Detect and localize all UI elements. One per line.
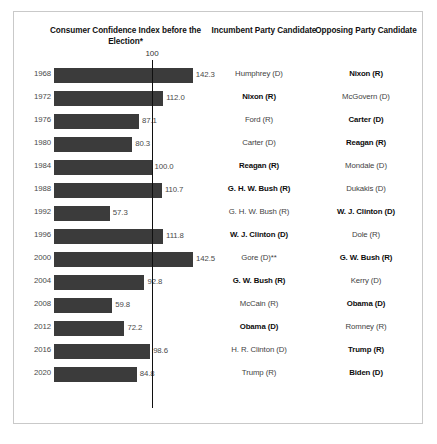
row-year-label: 1996 [14,230,51,239]
bar [54,344,150,359]
bar [54,367,137,382]
opposing-candidate: W. J. Clinton (D) [312,207,420,216]
opposing-candidate: McGovern (D) [312,92,420,101]
row-year-label: 1992 [14,207,51,216]
bar [54,298,112,313]
row-year-label: 1980 [14,138,51,147]
row-year-label: 1976 [14,115,51,124]
incumbent-candidate: G. W. Bush (R) [200,276,318,285]
bar [54,183,162,198]
incumbent-candidate: Gore (D)** [200,253,318,262]
bar-value-label: 87.1 [142,116,157,125]
chart-row: 1968142.3Humphrey (D)Nixon (R) [14,64,424,87]
opposing-candidate: Trump (R) [312,345,420,354]
chart-row: 197687.1Ford (R)Carter (D) [14,110,424,133]
row-year-label: 2020 [14,368,51,377]
incumbent-candidate: Humphrey (D) [200,69,318,78]
incumbent-candidate: G. H. W. Bush (R) [200,184,318,193]
bar [54,160,152,175]
opposing-candidate: Romney (R) [312,322,420,331]
bar [54,137,132,152]
incumbent-candidate: Reagan (R) [200,161,318,170]
chart-row: 1996111.8W. J. Clinton (D)Dole (R) [14,225,424,248]
incumbent-candidate: McCain (R) [200,299,318,308]
bar-value-label: 111.8 [166,231,184,240]
incumbent-candidate: W. J. Clinton (D) [200,230,318,239]
incumbent-candidate: H. R. Clinton (D) [200,345,318,354]
row-year-label: 2008 [14,299,51,308]
bar [54,321,124,336]
chart-row: 200859.8McCain (R)Obama (D) [14,294,424,317]
row-year-label: 2016 [14,345,51,354]
bar-value-label: 98.6 [153,346,168,355]
bar [54,229,163,244]
incumbent-candidate: Trump (R) [200,368,318,377]
incumbent-candidate: Ford (R) [200,115,318,124]
row-year-label: 2004 [14,276,51,285]
bar-value-label: 110.7 [165,185,183,194]
chart-row: 198080.3Carter (D)Reagan (R) [14,133,424,156]
chart-row: 2000142.5Gore (D)**G. W. Bush (R) [14,248,424,271]
row-year-label: 1968 [14,69,51,78]
chart-row: 1988110.7G. H. W. Bush (R)Dukakis (D) [14,179,424,202]
incumbent-candidate: Obama (D) [200,322,318,331]
bar [54,275,144,290]
bar-value-label: 59.8 [115,300,130,309]
opposing-candidate: Nixon (R) [312,69,420,78]
bar-value-label: 57.3 [113,208,128,217]
row-year-label: 1984 [14,161,51,170]
row-year-label: 2000 [14,253,51,262]
opposing-candidate: G. W. Bush (R) [312,253,420,262]
row-year-label: 1972 [14,92,51,101]
chart-row: 1972112.0Nixon (R)McGovern (D) [14,87,424,110]
incumbent-candidate: Carter (D) [200,138,318,147]
chart-row: 200492.8G. W. Bush (R)Kerry (D) [14,271,424,294]
bar-value-label: 92.8 [147,277,162,286]
plot-area: 1968142.3Humphrey (D)Nixon (R)1972112.0N… [14,12,424,425]
bar [54,114,139,129]
opposing-candidate: Mondale (D) [312,161,420,170]
opposing-candidate: Carter (D) [312,115,420,124]
opposing-candidate: Kerry (D) [312,276,420,285]
bar [54,252,193,267]
bar [54,68,193,83]
row-year-label: 1988 [14,184,51,193]
opposing-candidate: Biden (D) [312,368,420,377]
opposing-candidate: Obama (D) [312,299,420,308]
incumbent-candidate: G. H. W. Bush (R) [200,207,318,216]
opposing-candidate: Reagan (R) [312,138,420,147]
incumbent-candidate: Nixon (R) [200,92,318,101]
bar-value-label: 112.0 [166,93,184,102]
opposing-candidate: Dole (R) [312,230,420,239]
chart-frame: Consumer Confidence Index before the Ele… [13,11,423,424]
chart-row: 202084.8Trump (R)Biden (D) [14,363,424,386]
bar [54,206,110,221]
reference-line-100 [152,60,154,408]
bar-value-label: 100.0 [155,162,174,171]
bar-value-label: 80.3 [135,139,150,148]
bar [54,91,163,106]
chart-row: 199257.3G. H. W. Bush (R)W. J. Clinton (… [14,202,424,225]
bar-value-label: 72.2 [127,323,142,332]
opposing-candidate: Dukakis (D) [312,184,420,193]
row-year-label: 2012 [14,322,51,331]
chart-row: 201272.2Obama (D)Romney (R) [14,317,424,340]
chart-row: 201698.6H. R. Clinton (D)Trump (R) [14,340,424,363]
chart-row: 1984100.0Reagan (R)Mondale (D) [14,156,424,179]
